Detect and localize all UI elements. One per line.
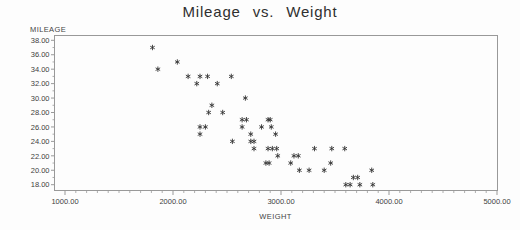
plot-frame [55, 36, 498, 191]
data-point-marker [210, 103, 214, 108]
data-point-marker [313, 146, 317, 151]
y-tick-label: 36.00 [31, 50, 50, 59]
data-point-marker [240, 117, 244, 122]
data-point-marker [267, 161, 271, 166]
x-tick-label: 3000.00 [267, 197, 294, 206]
data-point-marker [203, 125, 207, 130]
data-point-marker [356, 175, 360, 180]
data-point-marker [207, 110, 211, 115]
data-point-marker [343, 146, 347, 151]
data-point-marker [358, 182, 362, 187]
data-point-marker [221, 110, 225, 115]
y-tick-label: 22.00 [31, 152, 50, 161]
data-point-marker [229, 74, 233, 79]
data-point-marker [296, 154, 300, 159]
data-point-marker [330, 146, 334, 151]
data-point-marker [307, 168, 311, 173]
data-point-marker [269, 125, 273, 130]
data-point-marker [186, 74, 190, 79]
data-point-marker [230, 139, 234, 144]
y-tick-label: 28.00 [31, 108, 50, 117]
data-point-marker [260, 125, 264, 130]
data-point-marker [249, 139, 253, 144]
data-point-marker [175, 60, 179, 65]
data-point-marker [198, 125, 202, 130]
data-point-marker [244, 117, 248, 122]
data-point-marker [266, 146, 270, 151]
x-tick-label: 2000.00 [159, 197, 186, 206]
data-point-marker [156, 67, 160, 72]
x-tick-label: 1000.00 [51, 197, 78, 206]
scatter-plot: 38.0036.0034.0032.0030.0028.0026.0024.00… [0, 0, 520, 230]
y-tick-label: 30.00 [31, 94, 50, 103]
data-point-marker [275, 146, 279, 151]
y-tick-label: 38.00 [31, 36, 50, 45]
data-point-marker [371, 182, 375, 187]
data-point-marker [348, 182, 352, 187]
y-tick-label: 26.00 [31, 123, 50, 132]
y-tick-label: 20.00 [31, 166, 50, 175]
y-tick-label: 34.00 [31, 65, 50, 74]
data-point-marker [243, 96, 247, 101]
data-point-marker [344, 182, 348, 187]
data-point-marker [198, 132, 202, 137]
data-point-marker [274, 132, 278, 137]
data-point-marker [329, 161, 333, 166]
data-point-marker [297, 168, 301, 173]
x-tick-label: 5000.00 [483, 197, 510, 206]
chart-window: Mileage vs. Weight MILEAGE 38.0036.0034.… [0, 0, 520, 230]
data-point-marker [322, 168, 326, 173]
y-tick-label: 32.00 [31, 79, 50, 88]
data-point-marker [249, 132, 253, 137]
data-point-marker [276, 154, 280, 159]
x-tick-label: 4000.00 [375, 197, 402, 206]
data-point-marker [292, 154, 296, 159]
data-point-marker [198, 74, 202, 79]
x-axis-title: WEIGHT [54, 212, 497, 221]
data-point-marker [270, 146, 274, 151]
data-point-marker [252, 139, 256, 144]
y-tick-label: 18.00 [31, 180, 50, 189]
data-point-marker [264, 161, 268, 166]
data-point-marker [206, 74, 210, 79]
data-point-marker [370, 168, 374, 173]
data-point-marker [252, 146, 256, 151]
data-point-marker [151, 45, 155, 50]
data-point-marker [195, 81, 199, 86]
data-point-marker [351, 175, 355, 180]
data-point-marker [289, 161, 293, 166]
y-tick-label: 24.00 [31, 137, 50, 146]
data-point-marker [240, 125, 244, 130]
data-point-marker [215, 81, 219, 86]
